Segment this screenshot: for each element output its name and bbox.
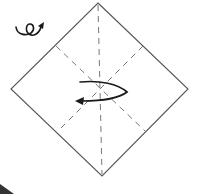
origami-diagram <box>0 0 197 194</box>
turn-over-icon <box>16 24 41 35</box>
paper-outline <box>11 3 188 176</box>
next-step-pointer-icon <box>0 184 14 194</box>
